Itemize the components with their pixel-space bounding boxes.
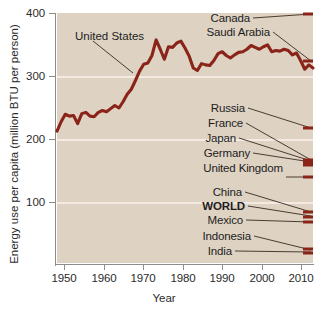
- energy-use-line-chart: 400 300 200 100 1950 1960 1970 1980 1990…: [0, 0, 328, 312]
- country-label-world: WORLD: [202, 201, 245, 212]
- country-label-india: India: [208, 246, 232, 257]
- country-label-germany: Germany: [204, 148, 250, 159]
- annotation-united-states: United States: [75, 30, 144, 42]
- country-label-united-kingdom: United Kingdom: [203, 163, 283, 174]
- country-label-japan: Japan: [205, 133, 236, 144]
- country-label-indonesia: Indonesia: [202, 231, 251, 242]
- country-label-france: France: [208, 118, 243, 129]
- leader-line-united-states: [93, 41, 133, 73]
- country-label-china: China: [213, 187, 242, 198]
- country-label-canada: Canada: [211, 13, 250, 24]
- country-label-saudi-arabia: Saudi Arabia: [207, 27, 270, 38]
- country-label-mexico: Mexico: [207, 215, 243, 226]
- country-label-russia: Russia: [211, 103, 245, 114]
- us-annotation-leader-layer: [0, 0, 328, 312]
